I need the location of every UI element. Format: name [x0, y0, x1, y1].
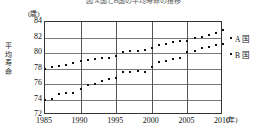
data-point [186, 40, 188, 42]
y-axis-title: 平 均 寿 命 [4, 42, 13, 76]
data-point [165, 60, 167, 62]
gridline-vertical [81, 22, 82, 113]
data-point [87, 84, 89, 86]
data-point [44, 68, 46, 70]
data-point [80, 60, 82, 62]
data-point [201, 36, 203, 38]
data-point [101, 57, 103, 59]
data-point [115, 55, 117, 57]
chart-figure: 図 A国とB国の平均寿命の推移 (歳) 平 均 寿 命 727476788082… [0, 0, 267, 133]
y-axis-tick-label: 76 [26, 79, 42, 87]
data-point [151, 66, 153, 68]
x-axis-tick-label: 1985 [36, 116, 52, 125]
data-point [179, 57, 181, 59]
y-axis-tick-labels: 72747678808284 [24, 21, 42, 114]
data-point [144, 49, 146, 51]
gridline-horizontal [45, 53, 221, 54]
data-point [108, 57, 110, 59]
data-point [215, 44, 217, 46]
data-point [186, 51, 188, 53]
data-point [172, 58, 174, 60]
data-point [201, 47, 203, 49]
data-point [72, 62, 74, 64]
data-point [80, 88, 82, 90]
data-point [158, 44, 160, 46]
data-point [65, 64, 67, 66]
data-point [101, 80, 103, 82]
data-point [65, 92, 67, 94]
data-point [94, 83, 96, 85]
legend-label-a: A 国 [235, 33, 249, 44]
data-point [87, 59, 89, 61]
data-point [115, 77, 117, 79]
data-point [215, 32, 217, 34]
data-point [58, 93, 60, 95]
plot-area [44, 21, 222, 114]
legend-marker-dot-icon [230, 53, 232, 55]
data-point [129, 71, 131, 73]
x-axis-unit-label: (年) [226, 116, 238, 125]
data-point [222, 29, 224, 31]
data-point [208, 46, 210, 48]
data-point [144, 71, 146, 73]
data-point [165, 43, 167, 45]
x-axis-tick-labels: 198519901995200020052010 [44, 116, 222, 126]
gridline-horizontal [45, 100, 221, 101]
data-point [122, 51, 124, 53]
data-point [137, 70, 139, 72]
data-point [108, 78, 110, 80]
gridline-vertical [116, 22, 117, 113]
data-point [129, 50, 131, 52]
y-axis-tick-label: 84 [26, 17, 42, 25]
data-point [194, 37, 196, 39]
y-axis-tick-label: 80 [26, 48, 42, 56]
legend-marker-dot-icon [230, 37, 232, 39]
legend-item-a: A 国 [230, 30, 267, 46]
x-axis-tick-label: 2000 [143, 116, 159, 125]
y-axis-title-char-1: 平 [4, 42, 13, 51]
y-axis-title-char-3: 寿 [4, 59, 13, 68]
legend-item-b: B 国 [230, 46, 267, 62]
gridline-vertical [187, 22, 188, 113]
data-point [222, 43, 224, 45]
y-axis-tick-label: 78 [26, 64, 42, 72]
data-point [122, 71, 124, 73]
y-axis-tick-label: 74 [26, 95, 42, 103]
x-axis-tick-label: 1995 [107, 116, 123, 125]
data-point [151, 47, 153, 49]
data-point [51, 98, 53, 100]
data-point [158, 61, 160, 63]
x-axis-tick-label: 1990 [72, 116, 88, 125]
data-point [179, 40, 181, 42]
data-point [44, 99, 46, 101]
data-point [137, 50, 139, 52]
gridline-horizontal [45, 84, 221, 85]
data-point [208, 34, 210, 36]
chart-legend: A 国 B 国 [230, 30, 267, 62]
data-point [194, 50, 196, 52]
legend-label-b: B 国 [235, 49, 249, 60]
gridline-horizontal [45, 69, 221, 70]
x-axis-tick-label: 2005 [178, 116, 194, 125]
chart-title: 図 A国とB国の平均寿命の推移 [0, 0, 267, 5]
y-axis-title-char-2: 均 [4, 51, 13, 60]
data-point [172, 41, 174, 43]
data-point [72, 92, 74, 94]
data-point [94, 58, 96, 60]
data-point [58, 65, 60, 67]
y-axis-tick-label: 82 [26, 33, 42, 41]
y-axis-title-char-4: 命 [4, 68, 13, 77]
data-point [51, 66, 53, 68]
